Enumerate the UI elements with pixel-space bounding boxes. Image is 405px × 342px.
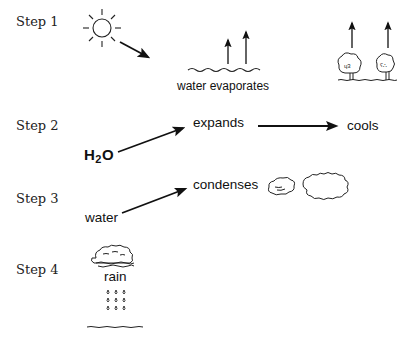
h2o-subscript: 2 — [95, 153, 102, 165]
rain-caption: rain — [104, 269, 127, 284]
raindrops-icon — [107, 290, 125, 310]
h2o-base: H — [84, 146, 95, 163]
cools-node: cools — [347, 118, 379, 133]
svg-text:ɥ3: ɥ3 — [344, 63, 351, 69]
arrow-h2o-to-expands — [118, 128, 183, 152]
step-4-label: Step 4 — [16, 262, 59, 277]
water-waves-icon — [188, 69, 260, 72]
sun-icon — [83, 9, 121, 47]
large-cloud-icon — [303, 173, 348, 200]
arrow-icon — [120, 42, 148, 57]
trees-icon: ɥ3 ʕ∴ — [338, 53, 397, 81]
evaporation-arrows-icon — [228, 32, 246, 64]
transpiration-arrows-icon — [352, 23, 388, 48]
rain-cloud-icon — [91, 245, 134, 267]
step-1-label: Step 1 — [16, 14, 59, 29]
expands-node: expands — [193, 115, 244, 130]
h2o-tail: O — [102, 146, 114, 163]
water-cycle-diagram: ɥ3 ʕ∴ — [0, 0, 405, 342]
water-evaporates-caption: water evaporates — [177, 79, 269, 93]
step-3-label: Step 3 — [16, 191, 59, 206]
h2o-label: H2O — [84, 146, 114, 165]
small-cloud-icon — [268, 177, 294, 194]
arrow-water-to-condenses — [122, 189, 185, 213]
svg-text:ʕ∴: ʕ∴ — [380, 62, 387, 68]
ground-line-icon — [87, 327, 143, 328]
condenses-node: condenses — [193, 177, 258, 192]
step-2-label: Step 2 — [16, 118, 59, 133]
water-start-node: water — [85, 210, 118, 225]
diagram-artwork: ɥ3 ʕ∴ — [0, 0, 405, 342]
